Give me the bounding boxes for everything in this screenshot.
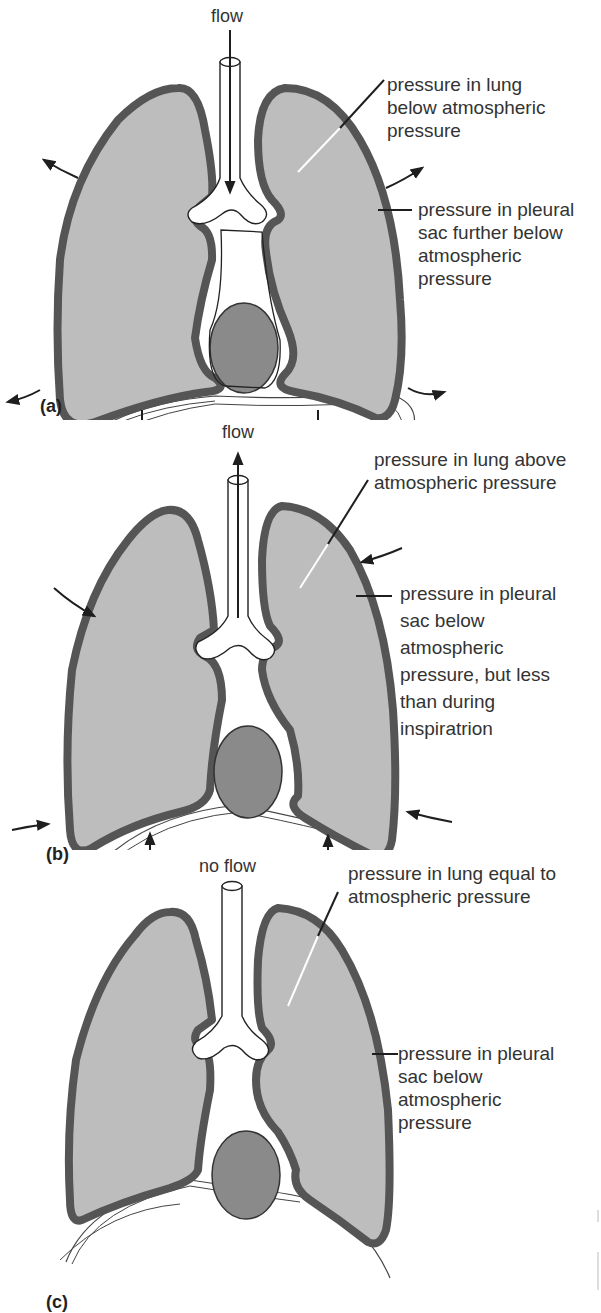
- pleural-pressure-annotation: pressure in pleural sac below atmospheri…: [400, 580, 556, 742]
- panel-b-expiration: flow pressure in lung above atmospheric …: [0, 420, 601, 850]
- heart: [214, 726, 282, 818]
- flow-label: flow: [211, 6, 243, 27]
- lung-pressure-annotation: pressure in lung equal to atmospheric pr…: [348, 862, 556, 908]
- lung-pressure-annotation: pressure in lung below atmospheric press…: [387, 73, 545, 142]
- chest-out-arrow: [386, 168, 422, 188]
- chest-out-arrow: [44, 160, 78, 178]
- lung-pressure-annotation: pressure in lung above atmospheric press…: [374, 448, 566, 494]
- chest-in-arrow: [408, 812, 452, 822]
- chest-in-arrow: [12, 824, 48, 830]
- panel-a-inspiration: flow pressure in lung below atmospheric …: [0, 0, 601, 420]
- pleural-pressure-annotation: pressure in pleural sac below atmospheri…: [398, 1042, 554, 1134]
- pleural-pressure-annotation: pressure in pleural sac further below at…: [418, 198, 574, 290]
- panel-label-a: (a): [40, 396, 62, 417]
- flow-label: flow: [222, 422, 254, 443]
- heart: [210, 303, 278, 393]
- heart: [212, 1131, 280, 1219]
- chest-in-arrow: [362, 548, 402, 562]
- chest-out-arrow: [8, 390, 40, 402]
- panel-label-c: (c): [46, 1292, 68, 1313]
- chest-out-arrow: [408, 388, 444, 394]
- panel-c-rest: no flow pressure in lung equal to atmosp…: [0, 850, 601, 1307]
- left-lung: [67, 510, 222, 850]
- left-lung: [69, 912, 212, 1221]
- left-lung: [58, 88, 221, 420]
- flow-label: no flow: [199, 856, 256, 877]
